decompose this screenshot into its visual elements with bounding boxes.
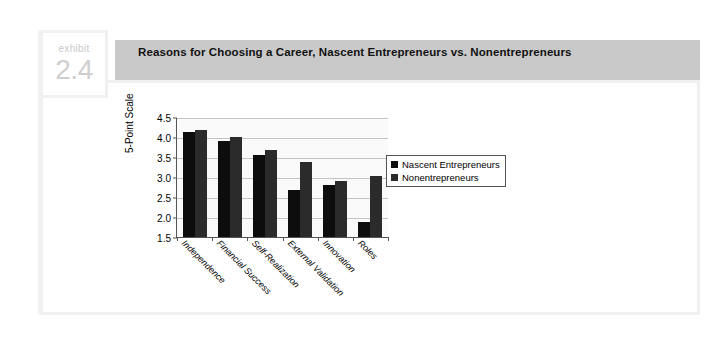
bar-group bbox=[212, 118, 247, 237]
x-axis-tick-mark bbox=[388, 237, 389, 241]
bar bbox=[253, 155, 265, 237]
bar bbox=[370, 176, 382, 237]
x-axis-label: Innovation bbox=[321, 238, 357, 274]
bar bbox=[358, 222, 370, 237]
y-axis-tick-label: 1.5 bbox=[157, 233, 171, 244]
exhibit-number-box: exhibit 2.4 bbox=[40, 30, 108, 98]
y-axis-tick-label: 2.0 bbox=[157, 213, 171, 224]
bar-group bbox=[247, 118, 282, 237]
legend-label: Nascent Entrepreneurs bbox=[402, 159, 500, 170]
bar-chart: 5-Point Scale 4.54.03.53.02.52.01.5 Inde… bbox=[128, 105, 528, 295]
bar bbox=[218, 141, 230, 237]
y-axis-tick-label: 3.0 bbox=[157, 173, 171, 184]
plot-area: 4.54.03.53.02.52.01.5 bbox=[176, 118, 388, 238]
bar bbox=[323, 185, 335, 237]
y-axis-tick-label: 2.5 bbox=[157, 193, 171, 204]
bar bbox=[300, 162, 312, 237]
bar-group bbox=[318, 118, 353, 237]
bar bbox=[288, 190, 300, 237]
legend-swatch-icon bbox=[391, 174, 398, 181]
page-title: Reasons for Choosing a Career, Nascent E… bbox=[138, 45, 578, 59]
y-axis-tick-label: 3.5 bbox=[157, 153, 171, 164]
legend-label: Nonentrepreneurs bbox=[402, 172, 479, 183]
legend-item-series-1: Nascent Entrepreneurs bbox=[391, 159, 500, 170]
bar bbox=[335, 181, 347, 237]
bar bbox=[230, 137, 242, 237]
legend-item-series-2: Nonentrepreneurs bbox=[391, 172, 500, 183]
bar-groups bbox=[177, 118, 388, 237]
legend-swatch-icon bbox=[391, 161, 398, 168]
bar-group bbox=[353, 118, 388, 237]
bar bbox=[183, 132, 195, 237]
y-axis-tick-label: 4.0 bbox=[157, 133, 171, 144]
bar-group bbox=[283, 118, 318, 237]
y-axis-title: 5-Point Scale bbox=[124, 94, 135, 153]
exhibit-page: exhibit 2.4 Reasons for Choosing a Caree… bbox=[0, 0, 719, 346]
bar-group bbox=[177, 118, 212, 237]
chart-legend: Nascent Entrepreneurs Nonentrepreneurs bbox=[386, 155, 506, 187]
x-axis-label: Roles bbox=[356, 238, 379, 261]
bar bbox=[195, 130, 207, 237]
bar bbox=[265, 150, 277, 237]
exhibit-number: 2.4 bbox=[55, 56, 92, 84]
y-axis-tick-label: 4.5 bbox=[157, 113, 171, 124]
exhibit-label: exhibit bbox=[58, 44, 89, 54]
x-axis-labels: IndependenceFinancial SuccessSelf-Realiz… bbox=[176, 238, 388, 293]
